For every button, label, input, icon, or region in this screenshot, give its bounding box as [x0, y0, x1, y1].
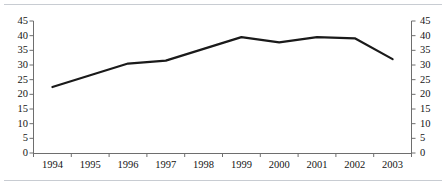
- y-axis-left-tick-label: 20: [12, 89, 28, 100]
- chart-figure: 454035302520151050 454035302520151050 19…: [0, 0, 446, 187]
- y-axis-right-tick-label: 30: [420, 60, 436, 71]
- x-axis-tick-label: 1999: [224, 160, 258, 171]
- x-axis-tick-label: 2002: [338, 160, 372, 171]
- y-axis-left-tick-label: 0: [12, 148, 28, 159]
- y-axis-left-tick-label: 5: [12, 133, 28, 144]
- y-axis-left-tick-label: 30: [12, 60, 28, 71]
- y-axis-right-tick-label: 45: [420, 16, 436, 27]
- x-axis-tick-label: 1996: [111, 160, 145, 171]
- x-axis-tick-label: 1995: [73, 160, 107, 171]
- y-axis-left-tick-label: 10: [12, 119, 28, 130]
- y-axis-right-ticks: [412, 21, 416, 153]
- chart-axes: [34, 21, 412, 154]
- y-axis-right-tick-label: 5: [420, 133, 436, 144]
- data-series-line: [52, 37, 392, 87]
- x-axis-tick-label: 2000: [262, 160, 296, 171]
- y-axis-left-tick-label: 35: [12, 45, 28, 56]
- y-axis-left-tick-label: 25: [12, 75, 28, 86]
- y-axis-left-tick-label: 40: [12, 31, 28, 42]
- x-axis-tick-label: 1994: [35, 160, 69, 171]
- y-axis-right-tick-label: 0: [420, 148, 436, 159]
- x-axis-tick-label: 2001: [300, 160, 334, 171]
- y-axis-right-tick-label: 15: [420, 104, 436, 115]
- y-axis-left-tick-label: 15: [12, 104, 28, 115]
- y-axis-right-tick-label: 35: [420, 45, 436, 56]
- y-axis-right-tick-label: 25: [420, 75, 436, 86]
- x-axis-tick-label: 2003: [376, 160, 410, 171]
- x-axis-tick-label: 1998: [187, 160, 221, 171]
- y-axis-right-tick-label: 40: [420, 31, 436, 42]
- y-axis-right-tick-label: 20: [420, 89, 436, 100]
- y-axis-left-tick-label: 45: [12, 16, 28, 27]
- line-chart-plot-area: [0, 0, 446, 187]
- x-axis-tick-label: 1997: [149, 160, 183, 171]
- y-axis-left-ticks: [30, 21, 34, 153]
- y-axis-right-tick-label: 10: [420, 119, 436, 130]
